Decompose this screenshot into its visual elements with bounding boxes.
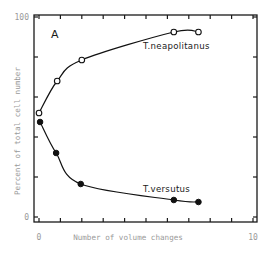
open-circle-marker xyxy=(196,29,202,35)
x-tick-label: 10 xyxy=(248,233,258,242)
open-circle-marker xyxy=(79,57,85,63)
filled-circle-marker xyxy=(196,199,202,205)
open-circle-marker xyxy=(54,78,60,84)
panel-label: A xyxy=(51,28,59,41)
x-axis-label: Number of volume changes xyxy=(73,233,183,242)
tick-labels: 0100100 xyxy=(15,13,258,242)
open-circle-marker xyxy=(171,29,177,35)
x-tick-label: 0 xyxy=(37,233,42,242)
filled-circle-marker xyxy=(37,119,43,125)
series-curves xyxy=(39,30,198,202)
y-tick-label: 0 xyxy=(24,213,29,222)
y-axis-label: Percent of total cell number xyxy=(13,67,22,195)
filled-circle-marker xyxy=(78,181,84,187)
chart: 0100100 A T.neapolitanus T.versutus Numb… xyxy=(0,0,272,253)
y-tick-label: 100 xyxy=(15,13,30,22)
filled-circle-marker xyxy=(171,197,177,203)
open-circle-marker xyxy=(36,110,42,116)
filled-circle-marker xyxy=(53,150,59,156)
series-label-neapolitanus: T.neapolitanus xyxy=(142,41,210,51)
series-points xyxy=(36,29,201,205)
series-label-versutus: T.versutus xyxy=(142,184,190,194)
